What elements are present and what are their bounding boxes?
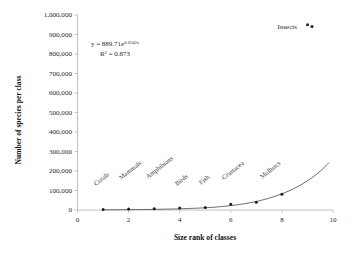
data-point-molluscs [255, 201, 258, 204]
y-tick-label: 100,000 [49, 187, 73, 195]
y-axis-title: Number of species per class [14, 75, 23, 164]
data-point-rank-eight [280, 193, 283, 196]
amphibians-label: Amphibians [144, 154, 174, 180]
data-point-mammals [127, 207, 130, 210]
x-tick-label: 0 [76, 216, 80, 224]
x-tick-label: 8 [280, 216, 284, 224]
data-point-amphibians [153, 207, 156, 210]
x-tick-label: 10 [329, 216, 337, 224]
equation-exponent: 0.6242x [124, 40, 140, 45]
x-tick-label: 6 [229, 216, 233, 224]
r-squared-value: R2 = 0.873 [100, 50, 131, 58]
x-tick-label: 4 [178, 216, 182, 224]
exponential-trendline [103, 163, 329, 210]
crustacea-label: Crustacea [220, 159, 245, 181]
equation-main: y = 889.71e [91, 40, 124, 48]
fish-label: Fish [197, 173, 211, 186]
corals-label: Corals [92, 170, 110, 186]
species-size-rank-scatter-chart: Number of species per class 1,000,000 90… [0, 0, 354, 261]
chart-container: Number of species per class 1,000,000 90… [0, 0, 354, 261]
y-tick-label: 900,000 [49, 31, 73, 39]
x-tick-label: 2 [127, 216, 131, 224]
y-tick-label: 400,000 [49, 128, 73, 136]
data-point-birds [178, 207, 181, 210]
category-annotations: Corals Mammals Amphibians Birds Fish Cru… [92, 154, 282, 187]
data-point-insects [306, 23, 309, 26]
y-tick-label: 500,000 [49, 109, 73, 117]
legend-label-insects: Insects [278, 23, 298, 31]
legend-marker-insects [311, 25, 314, 28]
r-squared-number: = 0.873 [107, 50, 131, 58]
y-tick-label: 1,000,000 [44, 11, 73, 19]
data-point-corals [102, 208, 105, 211]
molluscs-label: Molluscs [258, 159, 282, 180]
y-tick-label: 200,000 [49, 167, 73, 175]
x-axis-tick-labels: 0 2 4 6 8 10 [76, 216, 337, 224]
trendline-equation: y = 889.71e0.6242x [91, 40, 140, 48]
data-point-crustacea [229, 203, 232, 206]
y-tick-label: 0 [68, 206, 72, 214]
y-tick-label: 700,000 [49, 70, 73, 78]
x-axis-title: Size rank of classes [174, 233, 236, 242]
y-tick-label: 800,000 [49, 50, 73, 58]
y-tick-label: 600,000 [49, 89, 73, 97]
trendline-equation-annotation: y = 889.71e0.6242x R2 = 0.873 [91, 40, 140, 58]
y-tick-label: 300,000 [49, 148, 73, 156]
mammals-label: Mammals [117, 159, 142, 181]
birds-label: Birds [173, 172, 189, 187]
y-axis-tick-labels: 1,000,000 900,000 800,000 700,000 600,00… [44, 11, 73, 214]
data-point-fish [204, 206, 207, 209]
